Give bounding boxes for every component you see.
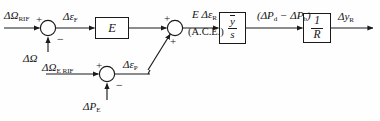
summer-2-sign-top: + — [164, 13, 170, 24]
summer-3-sign-left: + — [96, 60, 102, 71]
block-diagram: E y s 1 R ΔΩRIF ΔΩ ΔεF E ΔεR (A.C.E.) (Δ… — [0, 0, 380, 121]
block-gain-e: E — [95, 17, 129, 39]
summer-3-sign-bottom: − — [116, 79, 123, 91]
droop-numerator: 1 — [312, 15, 322, 27]
label-delta-omega: ΔΩ — [23, 53, 37, 64]
label-ace-paren: (A.C.E.) — [188, 27, 224, 38]
label-eps-f: ΔεF — [63, 11, 78, 24]
label-delta-p-e: ΔPE — [83, 101, 100, 114]
integrator-denominator: s — [228, 29, 236, 40]
label-eps-p: ΔεP — [123, 59, 138, 72]
summer-1-sign-left: + — [36, 14, 42, 25]
summer-2-sign-bottom: + — [170, 36, 176, 47]
droop-fraction: 1 R — [311, 15, 322, 40]
block-gain-e-label: E — [108, 21, 116, 36]
label-power-difference: (ΔPd − ΔPb) — [257, 10, 311, 23]
summer-1-sign-bottom: − — [57, 33, 64, 45]
droop-denominator: R — [311, 29, 322, 41]
label-ace-main: E ΔεR — [192, 9, 217, 22]
label-output-delta-y-r: ΔyR — [338, 11, 354, 24]
integrator-fraction: y s — [228, 16, 237, 40]
label-omega-rif: ΔΩRIF — [4, 10, 29, 23]
label-omega-e-rif: ΔΩE RIF — [42, 62, 73, 75]
integrator-numerator: y — [228, 16, 237, 27]
